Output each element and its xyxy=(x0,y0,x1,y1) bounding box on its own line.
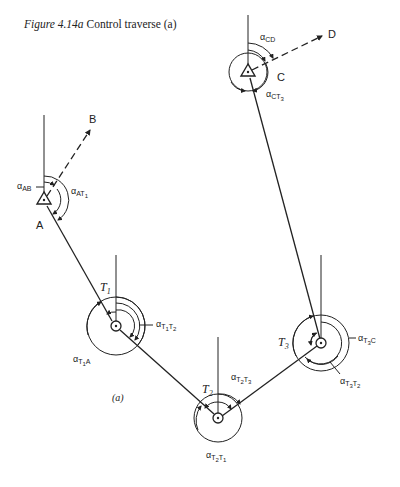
leg-A-T1 xyxy=(47,206,112,321)
label-D: D xyxy=(328,28,336,40)
leader-T3T2 xyxy=(330,362,340,374)
reference-line-A-B xyxy=(47,130,90,196)
label-alpha-AB: αAB xyxy=(17,181,32,192)
label-T2: T2 xyxy=(202,382,213,398)
label-T3: T3 xyxy=(278,335,289,351)
arc-alpha-T2T1 xyxy=(196,406,201,430)
label-A: A xyxy=(36,219,44,231)
traverse-station-T2 xyxy=(213,413,223,423)
arc-AB-to-AT1 xyxy=(53,189,61,214)
label-alpha-T2T1: αT2T1 xyxy=(206,450,227,463)
arc-T1-back xyxy=(107,312,116,314)
label-C: C xyxy=(277,71,285,83)
label-alpha-CT3: αCT3 xyxy=(266,89,285,102)
leg-T3-C xyxy=(250,78,320,339)
traverse-station-T3 xyxy=(316,338,326,348)
label-T1: T1 xyxy=(100,280,111,296)
subfigure-label: (a) xyxy=(112,392,124,404)
traverse-diagram: A B C D T1 T2 T3 αAB αAT1 αCD αCT3 αT1T2… xyxy=(0,0,400,487)
label-alpha-T1T2: αT1T2 xyxy=(156,319,177,332)
arc-alpha-T1T2-outer xyxy=(116,297,145,345)
label-alpha-CD: αCD xyxy=(260,32,275,43)
label-alpha-T3C: αT3C xyxy=(358,333,376,346)
label-alpha-AT1: αAT1 xyxy=(71,186,89,199)
label-B: B xyxy=(89,113,96,125)
leg-T1-T2 xyxy=(120,330,214,414)
arc-T2-inner-right xyxy=(218,402,231,409)
label-alpha-T1A: αT1A xyxy=(73,354,91,367)
arc-alpha-AB xyxy=(44,182,54,185)
label-alpha-T2T3: αT2T3 xyxy=(231,372,252,385)
label-alpha-T3T2: αT3T2 xyxy=(340,376,361,389)
arc-alpha-T3T2 xyxy=(307,356,338,364)
arc-alpha-T1T2-mid xyxy=(116,303,140,340)
traverse-station-T1 xyxy=(111,321,121,331)
